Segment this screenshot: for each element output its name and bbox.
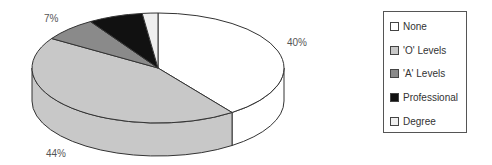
legend-label: 'O' Levels <box>403 45 446 56</box>
legend: None 'O' Levels 'A' Levels Professional … <box>383 11 467 133</box>
legend-label: Professional <box>403 92 458 103</box>
legend-item-degree: Degree <box>390 115 436 127</box>
legend-swatch <box>390 22 399 31</box>
legend-swatch <box>390 93 399 102</box>
label-olevels-pct: 44% <box>46 148 66 159</box>
legend-swatch <box>390 117 399 126</box>
legend-label: None <box>403 21 427 32</box>
label-none-pct: 40% <box>287 37 307 48</box>
legend-item-professional: Professional <box>390 91 458 103</box>
legend-swatch <box>390 46 399 55</box>
legend-label: Degree <box>403 116 436 127</box>
legend-item-o-levels: 'O' Levels <box>390 44 446 56</box>
legend-label: 'A' Levels <box>403 68 445 79</box>
legend-swatch <box>390 69 399 78</box>
legend-item-a-levels: 'A' Levels <box>390 67 445 79</box>
label-alevels-pct: 7% <box>44 13 58 24</box>
legend-item-none: None <box>390 20 427 32</box>
